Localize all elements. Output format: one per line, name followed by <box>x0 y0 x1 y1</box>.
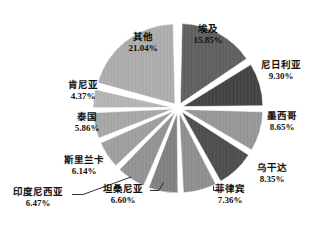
slice-label-indonesia-name: 印度尼西亚 <box>3 187 73 198</box>
slice-label-tanzania: 坦桑尼亚 6.60% <box>92 184 154 205</box>
slice-label-philippines-name: 菲律宾 <box>199 184 261 195</box>
slice-label-philippines-value: 7.36% <box>199 195 261 205</box>
slice-label-others-name: 其他 <box>113 32 173 43</box>
slice-label-nigeria: 尼日利亚 9.30% <box>248 60 314 81</box>
slice-label-uganda-value: 8.35% <box>243 174 301 184</box>
slice-label-thailand-name: 泰国 <box>61 112 113 123</box>
slice-label-philippines: 菲律宾 7.36% <box>199 184 261 205</box>
slice-label-uganda: 乌干达 8.35% <box>243 163 301 184</box>
slice-label-nigeria-value: 9.30% <box>248 71 314 81</box>
slice-label-kenya-name: 肯尼亚 <box>54 80 112 91</box>
slice-label-kenya: 肯尼亚 4.37% <box>54 80 112 101</box>
slice-label-others: 其他 21.04% <box>113 32 173 53</box>
slice-label-kenya-value: 4.37% <box>54 91 112 101</box>
slice-label-srilanka-name: 斯里兰卡 <box>53 155 115 166</box>
slice-label-egypt: 埃及 15.85% <box>176 24 240 45</box>
slice-label-tanzania-value: 6.60% <box>92 195 154 205</box>
slice-label-tanzania-name: 坦桑尼亚 <box>92 184 154 195</box>
pie-chart: 埃及 15.85% 尼日利亚 9.30% 墨西哥 8.65% 乌干达 8.35%… <box>0 0 317 225</box>
slice-label-egypt-name: 埃及 <box>176 24 240 35</box>
slice-label-thailand: 泰国 5.86% <box>61 112 113 133</box>
slice-label-uganda-name: 乌干达 <box>243 163 301 174</box>
slice-label-others-value: 21.04% <box>113 43 173 53</box>
slice-label-srilanka-value: 6.14% <box>53 166 115 176</box>
slice-label-mexico-value: 8.65% <box>252 122 312 132</box>
slice-label-egypt-value: 15.85% <box>176 35 240 45</box>
slice-label-srilanka: 斯里兰卡 6.14% <box>53 155 115 176</box>
slice-label-mexico: 墨西哥 8.65% <box>252 111 312 132</box>
slice-label-nigeria-name: 尼日利亚 <box>248 60 314 71</box>
slice-label-mexico-name: 墨西哥 <box>252 111 312 122</box>
slice-label-indonesia-value: 6.47% <box>3 198 73 208</box>
slice-label-indonesia: 印度尼西亚 6.47% <box>3 187 73 208</box>
slice-label-thailand-value: 5.86% <box>61 123 113 133</box>
